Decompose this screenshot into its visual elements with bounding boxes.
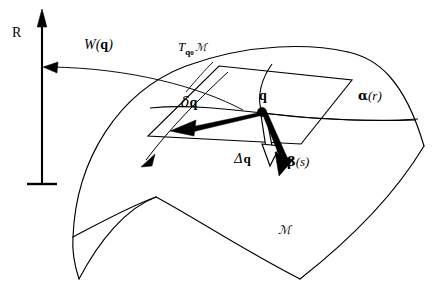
surface-edge-right-front xyxy=(300,146,424,279)
delta-q-label: δq xyxy=(181,95,197,110)
w-arrow-head xyxy=(43,62,58,73)
alpha-curve-label: α(r) xyxy=(358,89,382,102)
delta-q-letter: q xyxy=(189,95,197,110)
diagram-canvas xyxy=(0,0,446,301)
alpha-parameter: (r) xyxy=(368,88,382,103)
q-point-label: q xyxy=(259,89,267,103)
increment-q-letter: q xyxy=(243,151,250,166)
alpha-symbol: α xyxy=(358,88,368,103)
surface-edge-left-tip xyxy=(73,237,79,279)
r-axis-arrowhead xyxy=(37,9,47,27)
beta-parameter: (s) xyxy=(296,154,310,169)
potential-w-open: W( xyxy=(84,37,100,52)
potential-w-arg: q xyxy=(100,37,108,52)
extra-arrow-shaft xyxy=(146,72,228,160)
r-axis-label: R xyxy=(12,26,21,40)
manifold-tangent-space-diagram: R W(q) Tq0ℳ q δq Δq α(r) β(s) ℳ xyxy=(0,0,446,301)
increment-q-label: Δq xyxy=(234,152,251,165)
beta-symbol: β xyxy=(287,154,296,169)
alpha-curve-secondary xyxy=(262,113,418,120)
tangent-space-subscript-zero: 0 xyxy=(190,49,194,57)
q-point-dot xyxy=(257,107,266,116)
capital-delta-symbol: Δ xyxy=(234,151,243,166)
potential-function-label: W(q) xyxy=(84,38,113,52)
extra-arrow-head xyxy=(141,154,155,167)
r-axis xyxy=(27,9,57,184)
tangent-space-manifold-symbol: ℳ xyxy=(195,41,207,54)
beta-curve-label: β(s) xyxy=(287,155,309,168)
delta-q-arrowhead xyxy=(170,120,196,136)
q-point xyxy=(257,107,266,116)
delta-q-shaft xyxy=(191,112,262,132)
manifold-label: ℳ xyxy=(278,224,291,236)
tangent-leader-path xyxy=(186,62,213,92)
potential-w-close: ) xyxy=(108,37,113,52)
surface-edge-front-lip xyxy=(79,197,156,279)
tangent-leader-line xyxy=(186,62,213,92)
tangent-space-label: Tq0ℳ xyxy=(178,40,207,57)
surface-edge-front-lower xyxy=(156,197,300,279)
w-arrow-curve xyxy=(50,67,243,110)
